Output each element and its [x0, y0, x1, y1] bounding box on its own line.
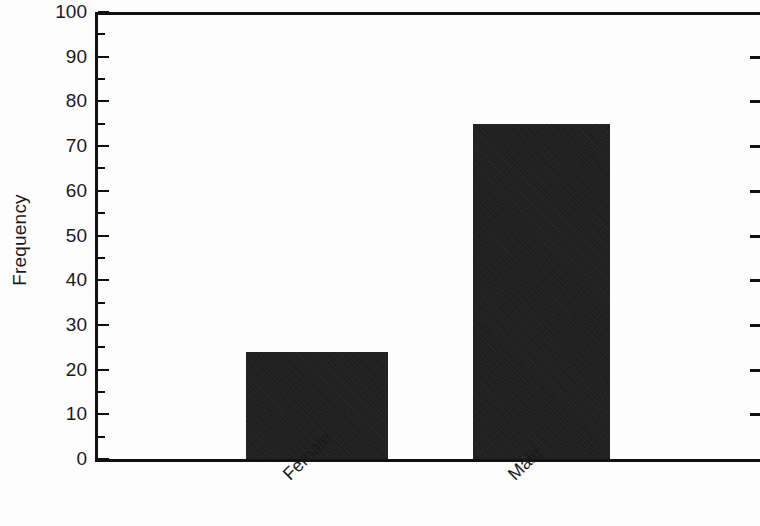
y-axis-minor-tick [98, 123, 105, 125]
y-axis-tick-label: 90 [32, 46, 87, 68]
y-axis-major-tick [98, 190, 109, 192]
y-axis-major-tick [98, 11, 109, 13]
right-axis-major-tick [750, 413, 760, 416]
y-axis-tick-label: 70 [32, 135, 87, 157]
y-axis-major-tick [98, 235, 109, 237]
right-axis-major-tick [750, 279, 760, 282]
y-axis-tick-label: 0 [32, 448, 87, 470]
y-axis-minor-tick [98, 257, 105, 259]
y-axis-tick-label: 40 [32, 269, 87, 291]
y-axis-minor-tick [98, 33, 105, 35]
right-axis-major-tick [750, 145, 760, 148]
y-axis-tick-label: 60 [32, 180, 87, 202]
y-axis-major-tick [98, 279, 109, 281]
y-axis-major-tick [98, 100, 109, 102]
plot-area [95, 12, 760, 462]
x-axis-line [95, 459, 760, 462]
y-axis-tick-label: 10 [32, 403, 87, 425]
y-axis-minor-tick [98, 78, 105, 80]
y-axis-major-tick [98, 145, 109, 147]
bar [473, 124, 610, 459]
y-axis-tick-label: 30 [32, 314, 87, 336]
y-axis-major-tick [98, 413, 109, 415]
y-axis-tick-label: 100 [32, 1, 87, 23]
y-axis-minor-tick [98, 346, 105, 348]
right-axis-major-tick [750, 190, 760, 193]
plot-top-border [95, 12, 760, 15]
y-axis-tick-label: 20 [32, 359, 87, 381]
right-axis-major-tick [750, 324, 760, 327]
y-axis-minor-tick [98, 212, 105, 214]
y-axis-tick-labels: 1009080706050403020100 [32, 0, 87, 480]
y-axis-tick-label: 50 [32, 225, 87, 247]
y-axis-major-tick [98, 369, 109, 371]
y-axis-minor-tick [98, 391, 105, 393]
y-axis-major-tick [98, 56, 109, 58]
y-axis-minor-tick [98, 167, 105, 169]
right-axis-major-tick [750, 56, 760, 59]
bar-chart: Frequency 1009080706050403020100 FemaleM… [0, 0, 760, 526]
y-axis-minor-tick [98, 302, 105, 304]
y-axis-major-tick [98, 324, 109, 326]
right-axis-major-tick [750, 100, 760, 103]
y-axis-tick-label: 80 [32, 90, 87, 112]
right-axis-major-tick [750, 235, 760, 238]
y-axis-major-tick [98, 458, 109, 460]
right-axis-major-tick [750, 369, 760, 372]
y-axis-title-label: Frequency [9, 194, 31, 286]
y-axis-minor-tick [98, 436, 105, 438]
